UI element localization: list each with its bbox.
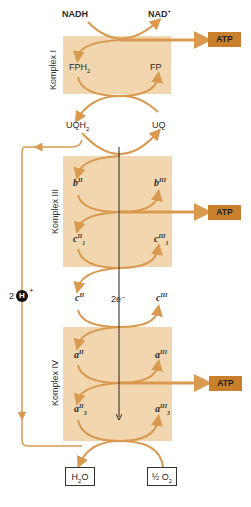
a3-reduced-label: aII3 — [74, 404, 87, 414]
b-reduced-label: bII — [73, 178, 83, 188]
uqh2-label: UQH2 — [66, 121, 89, 130]
c1-reduced-label: cII1 — [73, 234, 85, 244]
arrows-layer — [0, 0, 251, 507]
c-oxidized-label: cIII — [156, 293, 167, 303]
atp-box-complex-1: ATP — [208, 32, 241, 47]
nad-label: NAD+ — [148, 10, 171, 19]
nadh-label: NADH — [62, 10, 88, 19]
complex-4-label: Komplex IV — [50, 360, 60, 406]
b-oxidized-label: bIII — [154, 178, 166, 188]
a-reduced-label: aII — [74, 350, 84, 360]
atp-box-complex-3: ATP — [208, 205, 241, 220]
proton-icon: H — [16, 290, 28, 302]
atp-box-complex-4: ATP — [209, 376, 242, 391]
a-oxidized-label: aIII — [155, 350, 167, 360]
c-reduced-label: cII — [75, 293, 84, 303]
uq-label: UQ — [152, 121, 166, 130]
complex-1-label: Komplex I — [48, 50, 58, 90]
c1-oxidized-label: cIII1 — [154, 234, 168, 244]
two-electrons-label: 2e⁻ — [111, 295, 126, 304]
water-product-box: H2O — [65, 467, 95, 486]
oxygen-substrate-box: ½ O2 — [147, 467, 177, 486]
proton-count: 2 — [9, 292, 14, 301]
fp-label: FP — [150, 63, 162, 72]
proton-charge: + — [29, 287, 34, 295]
a3-oxidized-label: aIII3 — [155, 404, 170, 414]
respiratory-chain-diagram: NADH NAD+ Komplex I FPH2 FP UQH2 UQ Komp… — [0, 0, 251, 507]
complex-3-label: Komplex III — [50, 189, 60, 234]
fph2-label: FPH2 — [69, 63, 90, 72]
